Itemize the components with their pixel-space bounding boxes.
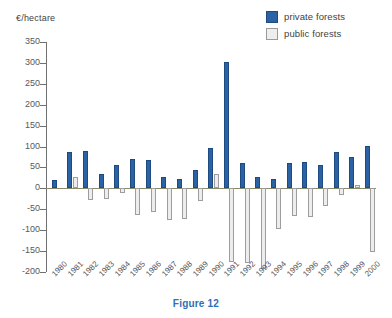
y-tick-label: -150 — [22, 245, 40, 255]
bar-public-forests-1995 — [292, 188, 297, 215]
bar-public-forests-1989 — [198, 188, 203, 201]
y-tick-label: -50 — [27, 203, 40, 213]
legend-item-private-forests: private forests — [266, 9, 386, 24]
bar-private-forests-1987 — [161, 177, 166, 188]
bar-group-1998 — [329, 42, 345, 272]
bar-private-forests-1980 — [52, 180, 57, 188]
bar-public-forests-1982 — [88, 188, 93, 200]
bar-public-forests-1981 — [73, 177, 78, 189]
y-tick-mark — [40, 126, 46, 127]
bar-group-1980 — [47, 42, 63, 272]
legend-label-public-forests: public forests — [284, 28, 341, 39]
y-tick-250: 250 — [6, 84, 46, 85]
bar-group-1995 — [282, 42, 298, 272]
bar-public-forests-1984 — [120, 188, 125, 193]
legend-item-public-forests: public forests — [266, 26, 386, 41]
y-tick-neg50: -50 — [6, 209, 46, 210]
bar-public-forests-1987 — [167, 188, 172, 220]
bar-private-forests-1993 — [255, 177, 260, 189]
y-tick-label: 350 — [25, 36, 40, 46]
y-tick-mark — [40, 42, 46, 43]
y-tick-mark — [40, 84, 46, 85]
bar-private-forests-1996 — [302, 162, 307, 189]
bar-group-1997 — [313, 42, 329, 272]
y-axis-title: €/hectare — [16, 13, 55, 23]
y-tick-label: 0 — [35, 182, 40, 192]
bar-private-forests-1989 — [193, 170, 198, 189]
y-tick-neg200: -200 — [6, 272, 46, 273]
bar-public-forests-1996 — [308, 188, 313, 217]
bar-group-1991 — [219, 42, 235, 272]
bar-group-1996 — [298, 42, 314, 272]
y-tick-label: -200 — [22, 266, 40, 276]
bar-private-forests-1985 — [130, 159, 135, 188]
legend-swatch-private-forests — [266, 11, 278, 23]
bar-private-forests-1990 — [208, 148, 213, 188]
bar-public-forests-1988 — [182, 188, 187, 219]
y-tick-neg150: -150 — [6, 251, 46, 252]
y-tick-mark — [40, 167, 46, 168]
bar-public-forests-2000 — [370, 188, 375, 251]
figure-caption: Figure 12 — [0, 298, 392, 309]
y-tick-label: 300 — [25, 57, 40, 67]
y-tick-label: 250 — [25, 78, 40, 88]
bar-group-1985 — [125, 42, 141, 272]
y-tick-300: 300 — [6, 63, 46, 64]
y-tick-150: 150 — [6, 126, 46, 127]
y-tick-100: 100 — [6, 147, 46, 148]
legend-swatch-public-forests — [266, 28, 278, 40]
y-tick-label: -100 — [22, 224, 40, 234]
y-tick-label: 200 — [25, 99, 40, 109]
bar-private-forests-1983 — [99, 174, 104, 189]
bar-group-1993 — [251, 42, 267, 272]
bar-private-forests-1995 — [287, 163, 292, 188]
bar-public-forests-1983 — [104, 188, 109, 199]
bar-public-forests-1999 — [355, 185, 360, 188]
bar-group-1988 — [172, 42, 188, 272]
bar-group-1983 — [94, 42, 110, 272]
bar-private-forests-1992 — [240, 163, 245, 188]
y-tick-mark — [40, 209, 46, 210]
bar-private-forests-1997 — [318, 165, 323, 188]
bar-public-forests-1993 — [261, 188, 266, 269]
bar-group-1986 — [141, 42, 157, 272]
bar-public-forests-1990 — [214, 174, 219, 188]
bar-private-forests-1981 — [67, 152, 72, 189]
bar-group-1987 — [157, 42, 173, 272]
chart-legend: private forests public forests — [266, 9, 386, 43]
bar-group-1984 — [110, 42, 126, 272]
y-tick-mark — [40, 147, 46, 148]
bar-private-forests-1999 — [349, 157, 354, 188]
bar-private-forests-1994 — [271, 179, 276, 188]
bar-public-forests-1985 — [135, 188, 140, 214]
y-tick-label: 150 — [25, 120, 40, 130]
bar-group-1981 — [63, 42, 79, 272]
y-tick-label: 50 — [30, 161, 40, 171]
legend-label-private-forests: private forests — [284, 11, 345, 22]
figure-12-chart: private forests public forests €/hectare… — [0, 0, 392, 318]
y-tick-mark — [40, 251, 46, 252]
bar-private-forests-2000 — [365, 146, 370, 189]
bar-group-1982 — [78, 42, 94, 272]
bar-public-forests-1991 — [229, 188, 234, 262]
y-tick-mark — [40, 105, 46, 106]
bar-group-1990 — [204, 42, 220, 272]
bar-public-forests-1992 — [245, 188, 250, 263]
bar-private-forests-1984 — [114, 165, 119, 188]
bar-group-1999 — [345, 42, 361, 272]
y-tick-50: 50 — [6, 167, 46, 168]
bar-public-forests-1997 — [323, 188, 328, 206]
y-tick-neg100: -100 — [6, 230, 46, 231]
bar-public-forests-1998 — [339, 188, 344, 194]
bar-series-container — [47, 42, 376, 272]
bar-private-forests-1982 — [83, 151, 88, 189]
bar-group-1994 — [266, 42, 282, 272]
bar-public-forests-1994 — [276, 188, 281, 228]
y-tick-200: 200 — [6, 105, 46, 106]
bar-group-1992 — [235, 42, 251, 272]
bar-group-2000 — [360, 42, 376, 272]
y-tick-mark — [40, 230, 46, 231]
y-tick-0: 0 — [6, 188, 46, 189]
bar-private-forests-1998 — [334, 152, 339, 188]
y-tick-label: 100 — [25, 141, 40, 151]
